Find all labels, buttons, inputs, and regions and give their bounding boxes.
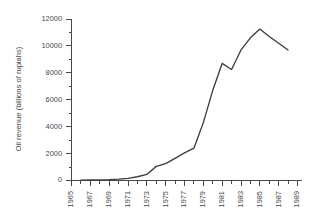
x-tick-label: 1973 bbox=[142, 191, 151, 207]
y-tick-label: 12000 bbox=[41, 14, 62, 23]
y-axis-ticks bbox=[66, 19, 72, 181]
y-tick-label: 10000 bbox=[41, 41, 62, 50]
y-axis: 020004000600080001000012000 bbox=[41, 14, 71, 185]
y-tick-label: 4000 bbox=[46, 122, 62, 131]
data-series-group bbox=[81, 29, 288, 180]
x-tick-label: 1977 bbox=[179, 191, 188, 207]
x-tick-label: 1987 bbox=[274, 191, 283, 207]
data-line-oil-revenue bbox=[81, 29, 288, 180]
chart-canvas: 020004000600080001000012000 196519671969… bbox=[0, 0, 315, 216]
line-chart-figure: 020004000600080001000012000 196519671969… bbox=[0, 0, 315, 216]
y-axis-title: Oil revenue (billions of rupiahs) bbox=[14, 46, 23, 151]
x-tick-label: 1969 bbox=[104, 191, 113, 207]
y-tick-label: 0 bbox=[58, 175, 62, 184]
x-tick-label: 1983 bbox=[236, 191, 245, 207]
x-tick-label: 1967 bbox=[85, 191, 94, 207]
y-tick-label: 6000 bbox=[46, 95, 62, 104]
y-axis-tick-labels: 020004000600080001000012000 bbox=[41, 14, 62, 185]
x-tick-label: 1975 bbox=[161, 191, 170, 207]
x-tick-label: 1965 bbox=[66, 191, 75, 207]
x-tick-label: 1985 bbox=[255, 191, 264, 207]
x-axis-tick-labels: 1965196719691971197319751977197919811983… bbox=[66, 191, 301, 207]
x-tick-label: 1981 bbox=[217, 191, 226, 207]
x-tick-label: 1979 bbox=[198, 191, 207, 207]
y-tick-label: 8000 bbox=[46, 68, 62, 77]
x-axis-ticks bbox=[72, 181, 298, 187]
x-tick-label: 1989 bbox=[292, 191, 301, 207]
x-axis: 1965196719691971197319751977197919811983… bbox=[66, 181, 302, 208]
y-tick-label: 2000 bbox=[46, 149, 62, 158]
x-tick-label: 1971 bbox=[123, 191, 132, 207]
